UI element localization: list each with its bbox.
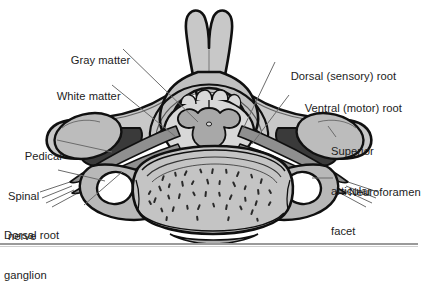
label-gray-matter: Gray matter [58,41,130,81]
label-dorsal-root-ganglion-line2: ganglion [4,269,59,282]
label-neuroforamen-text: Neuroforamen [349,186,421,198]
label-pedical-text: Pedical [25,150,62,162]
label-white-matter-text: White matter [57,90,121,102]
label-gray-matter-text: Gray matter [71,54,131,66]
label-superior-articular-facet-line1: Superior [331,145,374,158]
bottom-divider [0,243,418,245]
label-neuroforamen: Neuroforamen [336,173,421,213]
label-white-matter: White matter [44,77,121,117]
label-dorsal-sensory-root-text: Dorsal (sensory) root [291,70,397,82]
label-dorsal-root-ganglion-line1: Dorsal root [4,229,59,242]
vertebral-body [133,146,293,234]
label-ventral-motor-root-text: Ventral (motor) root [305,102,402,114]
bottom-divider-secondary [0,246,418,247]
label-superior-articular-facet-line3: facet [331,225,374,238]
